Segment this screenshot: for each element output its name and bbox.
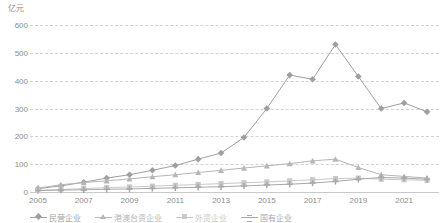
legend-label: 港澳台资企业	[114, 212, 162, 223]
series-4	[35, 174, 430, 193]
chart-legend: 民营企业港澳台资企业外资企业国有企业	[30, 212, 439, 223]
y-axis: 6005004003002001000	[0, 0, 28, 223]
x-axis-tick-label: 2007	[75, 196, 93, 205]
data-point-marker	[424, 109, 431, 116]
data-point-marker	[172, 162, 179, 169]
legend-item-2[interactable]: 港澳台资企业	[95, 212, 162, 223]
series-line	[38, 44, 427, 188]
series-line	[38, 159, 427, 188]
data-point-marker	[355, 165, 361, 171]
x-axis-tick-label: 2015	[258, 196, 276, 205]
legend-label: 国有企业	[260, 212, 292, 223]
legend-marker-icon	[241, 214, 258, 221]
legend-label: 外资企业	[195, 212, 227, 223]
legend-label: 民营企业	[49, 212, 81, 223]
series-2	[35, 156, 430, 191]
legend-item-3[interactable]: 外资企业	[176, 212, 227, 223]
x-axis-tick-label: 2021	[395, 196, 413, 205]
data-point-marker	[332, 41, 339, 48]
legend-item-4[interactable]: 国有企业	[241, 212, 292, 223]
line-chart: 亿元 6005004003002001000 20052007200920112…	[0, 0, 443, 223]
x-axis-tick-label: 2019	[349, 196, 367, 205]
y-axis-tick-label: 500	[2, 48, 28, 57]
y-axis-tick-label: 300	[2, 104, 28, 113]
y-axis-tick-label: 100	[2, 160, 28, 169]
data-point-marker	[218, 150, 225, 157]
y-axis-tick-label: 400	[2, 76, 28, 85]
x-axis-tick-label: 2017	[304, 196, 322, 205]
x-axis-tick-label: 2005	[29, 196, 47, 205]
legend-item-1[interactable]: 民营企业	[30, 212, 81, 223]
data-point-marker	[195, 156, 202, 163]
y-axis-tick-label: 200	[2, 132, 28, 141]
data-point-marker	[355, 73, 362, 80]
data-point-marker	[286, 72, 293, 79]
data-point-marker	[401, 100, 408, 107]
x-axis-tick-label: 2009	[121, 196, 139, 205]
y-axis-tick-label: 0	[2, 188, 28, 197]
data-point-marker	[149, 167, 156, 174]
plot-area: 200520072009201120132015201720192021	[30, 0, 439, 223]
legend-marker-icon	[30, 214, 47, 221]
y-axis-tick-label: 600	[2, 21, 28, 30]
data-point-marker	[309, 76, 316, 83]
legend-marker-icon	[176, 214, 193, 221]
data-point-marker	[378, 105, 385, 112]
x-axis-tick-label: 2011	[167, 196, 184, 205]
x-axis-tick-label: 2013	[212, 196, 230, 205]
series-layer	[30, 0, 439, 223]
legend-marker-icon	[95, 214, 112, 221]
